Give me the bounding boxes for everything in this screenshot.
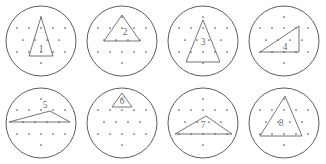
lattice-dot bbox=[301, 121, 303, 123]
lattice-dot bbox=[16, 133, 18, 135]
lattice-dot bbox=[133, 109, 135, 111]
lattice-dot bbox=[64, 109, 66, 111]
lattice-dot bbox=[178, 27, 180, 29]
lattice-dot bbox=[22, 39, 24, 41]
lattice-dot bbox=[283, 27, 285, 29]
lattice-dot bbox=[97, 51, 99, 53]
lattice-dot bbox=[139, 121, 141, 123]
dot-lattice bbox=[16, 16, 66, 64]
triangle-number-label: 5 bbox=[43, 100, 48, 110]
lattice-dot bbox=[307, 27, 309, 29]
lattice-dot bbox=[145, 51, 147, 53]
lattice-dot bbox=[64, 51, 66, 53]
lattice-dot bbox=[178, 109, 180, 111]
lattice-dot bbox=[145, 133, 147, 135]
lattice-dot bbox=[97, 109, 99, 111]
problem-1: 1 bbox=[0, 0, 82, 82]
lattice-dot bbox=[28, 109, 30, 111]
lattice-dot bbox=[145, 27, 147, 29]
lattice-dot bbox=[259, 109, 261, 111]
worksheet-page: 12345678 bbox=[0, 0, 326, 164]
lattice-dot bbox=[202, 109, 204, 111]
triangle-number-label: 4 bbox=[283, 42, 288, 52]
lattice-dot bbox=[196, 39, 198, 41]
lattice-dot bbox=[202, 16, 204, 18]
lattice-dot bbox=[283, 133, 285, 135]
triangle-number-label: 7 bbox=[201, 120, 206, 130]
lattice-dot bbox=[265, 121, 267, 123]
problem-5: 5 bbox=[0, 82, 82, 164]
problem-2: 2 bbox=[81, 0, 163, 82]
lattice-dot bbox=[184, 39, 186, 41]
lattice-dot bbox=[226, 51, 228, 53]
lattice-dot bbox=[289, 39, 291, 41]
lattice-dot bbox=[226, 109, 228, 111]
lattice-dot bbox=[184, 121, 186, 123]
problem-3: 3 bbox=[162, 0, 244, 82]
lattice-dot bbox=[121, 62, 123, 64]
lattice-dot bbox=[109, 27, 111, 29]
lattice-dot bbox=[202, 98, 204, 100]
problem-7: 7 bbox=[162, 82, 244, 164]
lattice-dot bbox=[97, 27, 99, 29]
lattice-dot bbox=[178, 51, 180, 53]
lattice-dot bbox=[226, 27, 228, 29]
lattice-dot bbox=[214, 109, 216, 111]
lattice-dot bbox=[295, 109, 297, 111]
lattice-dot bbox=[202, 27, 204, 29]
lattice-dot bbox=[40, 62, 42, 64]
lattice-dot bbox=[190, 109, 192, 111]
dot-lattice bbox=[259, 16, 309, 64]
lattice-dot bbox=[40, 98, 42, 100]
lattice-dot bbox=[265, 39, 267, 41]
lattice-dot bbox=[28, 133, 30, 135]
lattice-dot bbox=[109, 51, 111, 53]
very-flat-obtuse-triangle bbox=[9, 111, 70, 122]
lattice-dot bbox=[307, 109, 309, 111]
lattice-dot bbox=[109, 133, 111, 135]
lattice-dot bbox=[295, 133, 297, 135]
lattice-dot bbox=[40, 133, 42, 135]
lattice-dot bbox=[121, 51, 123, 53]
lattice-dot bbox=[28, 51, 30, 53]
lattice-dot bbox=[103, 121, 105, 123]
lattice-dot bbox=[16, 27, 18, 29]
lattice-dot bbox=[202, 144, 204, 146]
lattice-dot bbox=[283, 144, 285, 146]
lattice-dot bbox=[259, 27, 261, 29]
lattice-dot bbox=[64, 133, 66, 135]
triangle-number-label: 8 bbox=[279, 118, 284, 128]
problem-8: 8 bbox=[243, 82, 325, 164]
lattice-dot bbox=[307, 51, 309, 53]
lattice-dot bbox=[16, 51, 18, 53]
lattice-dot bbox=[271, 109, 273, 111]
lattice-dot bbox=[307, 133, 309, 135]
dot-lattice bbox=[259, 98, 309, 146]
lattice-dot bbox=[97, 133, 99, 135]
lattice-dot bbox=[133, 51, 135, 53]
right-triangle-vertical-right-leg bbox=[260, 26, 299, 52]
lattice-dot bbox=[145, 109, 147, 111]
lattice-dot bbox=[52, 27, 54, 29]
lattice-dot bbox=[109, 109, 111, 111]
lattice-dot bbox=[208, 39, 210, 41]
lattice-dot bbox=[271, 133, 273, 135]
lattice-dot bbox=[202, 51, 204, 53]
lattice-dot bbox=[289, 121, 291, 123]
problem-4: 4 bbox=[243, 0, 325, 82]
lattice-dot bbox=[52, 133, 54, 135]
lattice-dot bbox=[283, 16, 285, 18]
lattice-dot bbox=[52, 51, 54, 53]
lattice-dot bbox=[121, 109, 123, 111]
lattice-dot bbox=[271, 27, 273, 29]
lattice-dot bbox=[301, 39, 303, 41]
lattice-dot bbox=[121, 133, 123, 135]
lattice-dot bbox=[52, 109, 54, 111]
tall-scalene-triangle bbox=[260, 96, 302, 136]
lattice-dot bbox=[40, 144, 42, 146]
lattice-dot bbox=[283, 109, 285, 111]
lattice-dot bbox=[40, 27, 42, 29]
lattice-dot bbox=[220, 121, 222, 123]
lattice-dot bbox=[208, 121, 210, 123]
lattice-dot bbox=[28, 27, 30, 29]
